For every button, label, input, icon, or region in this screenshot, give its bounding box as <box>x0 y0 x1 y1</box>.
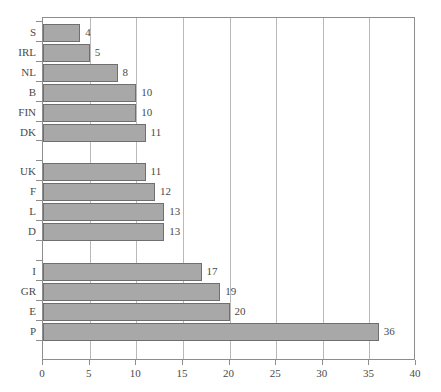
bar-value-label: 12 <box>160 182 171 200</box>
category-label-irl: IRL <box>18 45 36 59</box>
category-tick <box>36 160 42 161</box>
category-label-i: I <box>32 264 36 278</box>
value-tick-label-35: 35 <box>353 367 383 380</box>
category-label-l: L <box>29 204 36 218</box>
category-label-uk: UK <box>20 164 36 178</box>
category-tick <box>36 260 42 261</box>
bar-uk <box>43 163 146 181</box>
bar-value-label: 10 <box>141 83 152 101</box>
bar-value-label: 36 <box>384 322 395 340</box>
bar-dk <box>43 124 146 142</box>
value-tick-label-30: 30 <box>307 367 337 380</box>
bar-s <box>43 24 80 42</box>
bar-f <box>43 183 155 201</box>
category-tick <box>36 180 42 181</box>
category-label-b: B <box>29 85 36 99</box>
category-tick <box>36 140 42 141</box>
category-tick <box>36 41 42 42</box>
category-label-fin: FIN <box>18 105 36 119</box>
bar-value-label: 20 <box>235 302 246 320</box>
category-tick <box>36 220 42 221</box>
category-tick <box>36 280 42 281</box>
category-tick <box>36 320 42 321</box>
bar-value-label: 13 <box>169 222 180 240</box>
bar-value-label: 5 <box>95 43 101 61</box>
bar-value-label: 19 <box>225 282 236 300</box>
value-tick-0 <box>42 360 43 365</box>
gridline-35 <box>369 18 370 359</box>
gridline-25 <box>276 18 277 359</box>
value-tick-label-5: 5 <box>74 367 104 380</box>
category-tick <box>36 200 42 201</box>
value-tick-25 <box>275 360 276 365</box>
category-label-d: D <box>28 224 36 238</box>
category-tick <box>36 81 42 82</box>
bar-value-label: 10 <box>141 103 152 121</box>
value-tick-35 <box>368 360 369 365</box>
category-tick <box>36 21 42 22</box>
bar-fin <box>43 104 136 122</box>
plot-area: 4581010111112131317192036 <box>42 17 415 360</box>
bar-p <box>43 323 379 341</box>
bar-e <box>43 303 230 321</box>
bar-nl <box>43 64 118 82</box>
bar-value-label: 8 <box>123 63 129 81</box>
value-tick-5 <box>89 360 90 365</box>
category-label-gr: GR <box>21 284 36 298</box>
bar-l <box>43 203 164 221</box>
category-label-p: P <box>30 324 36 338</box>
value-tick-20 <box>229 360 230 365</box>
bar-value-label: 4 <box>85 23 91 41</box>
category-label-f: F <box>30 184 36 198</box>
bar-b <box>43 84 136 102</box>
category-tick <box>36 340 42 341</box>
value-tick-label-25: 25 <box>260 367 290 380</box>
value-tick-label-15: 15 <box>167 367 197 380</box>
value-tick-label-10: 10 <box>120 367 150 380</box>
bar-d <box>43 223 164 241</box>
value-tick-label-40: 40 <box>400 367 430 380</box>
category-label-nl: NL <box>21 65 36 79</box>
category-tick <box>36 240 42 241</box>
bar-chart: 4581010111112131317192036 05101520253035… <box>0 0 441 392</box>
category-tick <box>36 300 42 301</box>
category-label-dk: DK <box>20 125 36 139</box>
bar-i <box>43 263 202 281</box>
value-tick-label-20: 20 <box>214 367 244 380</box>
value-tick-40 <box>415 360 416 365</box>
category-label-s: S <box>30 25 36 39</box>
gridline-20 <box>230 18 231 359</box>
category-label-e: E <box>29 304 36 318</box>
value-tick-label-0: 0 <box>27 367 57 380</box>
bar-gr <box>43 283 220 301</box>
value-tick-30 <box>322 360 323 365</box>
value-tick-15 <box>182 360 183 365</box>
bar-value-label: 17 <box>207 262 218 280</box>
gridline-30 <box>323 18 324 359</box>
value-tick-10 <box>135 360 136 365</box>
category-tick <box>36 61 42 62</box>
category-tick <box>36 101 42 102</box>
bar-value-label: 11 <box>151 162 162 180</box>
bar-irl <box>43 44 90 62</box>
bar-value-label: 11 <box>151 123 162 141</box>
category-tick <box>36 121 42 122</box>
bar-value-label: 13 <box>169 202 180 220</box>
